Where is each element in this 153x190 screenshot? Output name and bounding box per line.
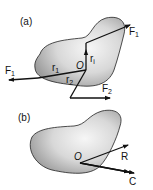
panel-a: (a) F1 F1 F2 r1 r2 ri O bbox=[5, 16, 139, 98]
label-f1-top: F1 bbox=[129, 26, 139, 38]
rigid-body-diagram: (a) F1 F1 F2 r1 r2 ri O (b) O R C bbox=[0, 0, 153, 190]
panel-a-label: (a) bbox=[20, 16, 32, 27]
label-couple: C bbox=[129, 176, 136, 187]
force-arrow-f1-left bbox=[9, 78, 38, 80]
label-f1-left: F1 bbox=[5, 65, 15, 77]
label-f2: F2 bbox=[102, 83, 112, 95]
panel-b-label: (b) bbox=[18, 112, 30, 123]
label-origin-b: O bbox=[74, 151, 82, 162]
rigid-body-b bbox=[30, 110, 121, 173]
label-resultant: R bbox=[121, 151, 128, 162]
panel-b: (b) O R C bbox=[18, 110, 136, 187]
label-origin-a: O bbox=[76, 60, 84, 71]
